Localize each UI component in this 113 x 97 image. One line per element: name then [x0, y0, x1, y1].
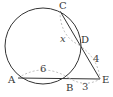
measure-be: 3 — [82, 81, 88, 92]
segment-ce — [60, 11, 100, 79]
measure-de: 4 — [93, 53, 99, 64]
label-a: A — [7, 74, 16, 85]
label-b: B — [66, 82, 73, 93]
label-c: C — [59, 0, 67, 11]
geometry-diagram: A B C D E 6 3 4 x — [0, 0, 113, 97]
measure-ab: 6 — [40, 63, 46, 74]
segment-ae — [18, 78, 100, 79]
measure-cd: x — [60, 33, 66, 44]
label-e: E — [102, 74, 109, 85]
label-d: D — [81, 34, 89, 45]
